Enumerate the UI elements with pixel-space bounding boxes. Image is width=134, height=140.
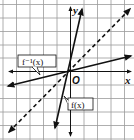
coordinate-graph: y x O f⁻¹(x) f(x) (0, 0, 134, 140)
f-inverse-label: f⁻¹(x) (22, 57, 43, 67)
f-label: f(x) (71, 100, 85, 110)
y-axis-label: y (71, 4, 78, 16)
grid (0, 0, 134, 140)
f-callout: f(x) (64, 96, 93, 110)
x-axis-label: x (124, 74, 131, 86)
origin-label: O (72, 75, 80, 86)
